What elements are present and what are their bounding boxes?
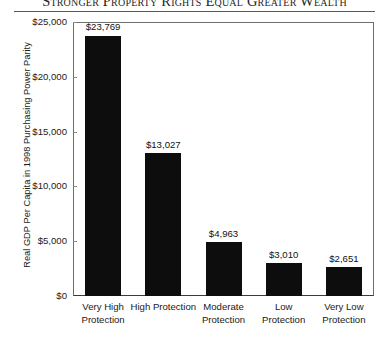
bar — [326, 267, 362, 296]
y-tick-mark — [73, 132, 77, 133]
x-category-label-line: Protection — [301, 314, 387, 327]
y-tick-mark — [73, 77, 77, 78]
bar-value-label: $4,963 — [188, 228, 260, 239]
x-category-label: Very LowProtection — [301, 301, 387, 326]
bar-value-label: $23,769 — [67, 21, 139, 32]
title-divider — [14, 11, 375, 12]
x-category-label-line: Protection — [60, 314, 146, 327]
bar — [206, 242, 242, 296]
bar — [145, 153, 181, 296]
y-tick-label: $10,000 — [5, 180, 67, 191]
y-tick-label: $25,000 — [5, 16, 67, 27]
bar — [266, 263, 302, 296]
bar — [85, 36, 121, 297]
y-tick-label: $20,000 — [5, 71, 67, 82]
bar-value-label: $2,651 — [308, 253, 380, 264]
y-tick-label: $0 — [5, 290, 67, 301]
y-tick-label: $5,000 — [5, 235, 67, 246]
bar-value-label: $13,027 — [127, 139, 199, 150]
chart-title: Stronger Property Rights Equal Greater W… — [0, 0, 389, 10]
x-category-label-line: Very Low — [301, 301, 387, 314]
y-tick-mark — [73, 186, 77, 187]
y-tick-mark — [73, 241, 77, 242]
y-tick-label: $15,000 — [5, 126, 67, 137]
